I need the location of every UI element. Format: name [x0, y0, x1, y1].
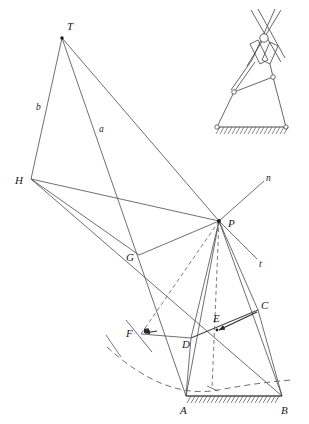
inset-joint-left-pin: [232, 90, 237, 95]
segment-P-t: [219, 221, 257, 259]
figure-root: T H P G F D E C A B a b n t: [0, 0, 309, 424]
segment-P-n: [219, 181, 264, 221]
mechanism-inset: [215, 9, 288, 129]
label-T: T: [67, 20, 74, 32]
inset-link-left: [234, 62, 255, 92]
arc-tick-left: [106, 335, 121, 357]
segment-P-G: [139, 221, 219, 255]
label-A: A: [179, 404, 187, 416]
ground-hatching-inset: [216, 127, 288, 134]
inset-coupler: [234, 77, 273, 92]
segment-H-B: [31, 179, 282, 396]
segment-P-A: [186, 221, 219, 396]
vertex-markers: [60, 36, 221, 331]
label-C: C: [261, 299, 269, 311]
segment-H-G: [31, 179, 139, 255]
construction-lines: [31, 38, 282, 396]
dashed-construction-lines: [141, 221, 219, 389]
label-B: B: [281, 404, 288, 416]
segment-P-C: [219, 221, 258, 310]
vertex-dot-E: [216, 329, 219, 332]
segment-T-A: [62, 38, 186, 396]
label-F: F: [125, 327, 133, 339]
coupler-curve-arc: [107, 347, 292, 392]
arrow-C-to-E: [219, 312, 257, 330]
vertex-dot-T: [60, 36, 63, 39]
label-b: b: [36, 102, 41, 112]
label-E: E: [212, 312, 220, 324]
label-D: D: [181, 338, 190, 350]
right-angle-mark-F: [144, 329, 149, 334]
segment-H-P: [31, 179, 219, 221]
label-t: t: [259, 259, 262, 269]
arc-tick-center: [207, 386, 218, 391]
label-P: P: [227, 217, 235, 229]
inset-ground-pin-left: [215, 125, 219, 129]
point-labels: T H P G F D E C A B a b n t: [14, 20, 288, 416]
inset-frame-right: [273, 77, 286, 127]
inset-pivot-circle: [260, 34, 268, 42]
label-H: H: [14, 174, 24, 186]
segment-P-B: [219, 221, 282, 396]
inset-ground-pin-right: [284, 125, 288, 129]
label-n: n: [266, 173, 271, 183]
segment-B-C: [258, 310, 282, 396]
label-G: G: [126, 251, 134, 263]
inset-joint-right-pin: [271, 75, 276, 80]
ground-hatching-main: [187, 396, 279, 403]
segment-T-P: [62, 38, 219, 221]
label-a: a: [99, 124, 104, 134]
vertex-dot-P: [217, 219, 221, 223]
geometry-diagram: T H P G F D E C A B a b n t: [0, 0, 309, 424]
inset-link-left-b: [231, 60, 252, 90]
inset-frame-left: [217, 92, 234, 127]
